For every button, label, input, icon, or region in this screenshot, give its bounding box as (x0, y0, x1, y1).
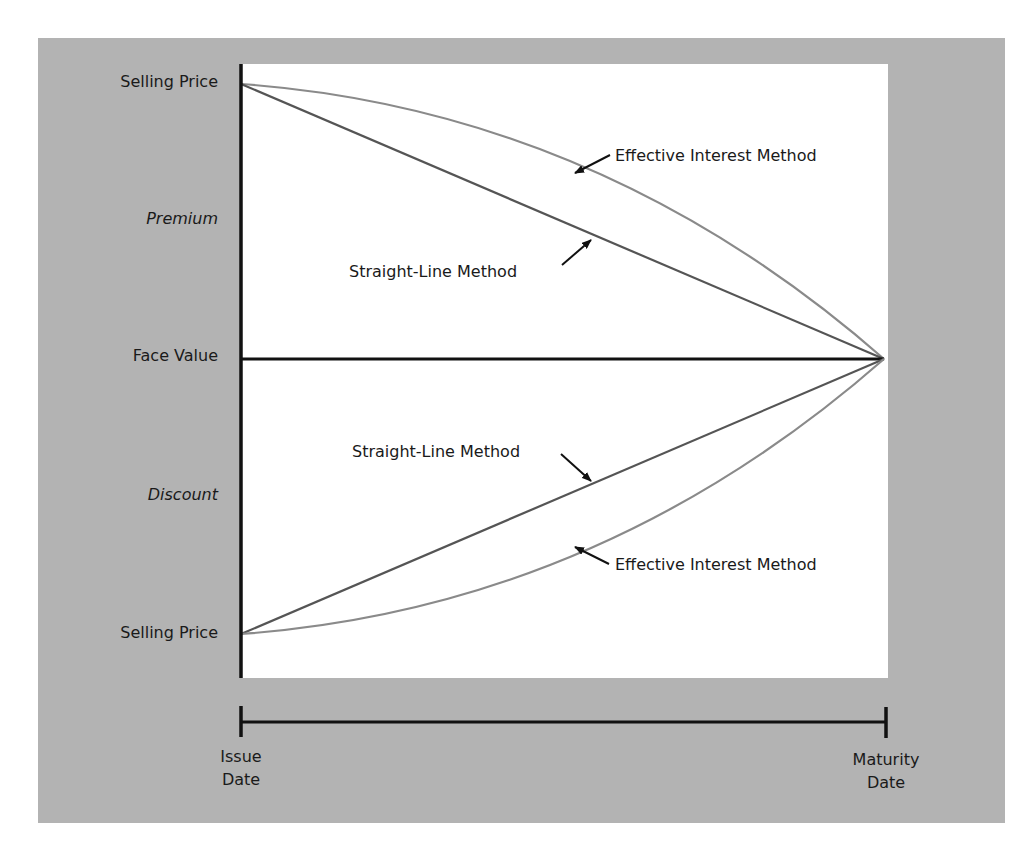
label-face-value: Face Value (133, 346, 218, 366)
label-top-selling-price: Selling Price (120, 72, 218, 92)
annotation-discount-effective-interest: Effective Interest Method (615, 555, 817, 575)
discount-straight-line (241, 359, 884, 634)
annotation-premium-straight-line: Straight-Line Method (349, 262, 517, 282)
amortization-diagram (0, 0, 1026, 863)
premium-straight-line (241, 84, 884, 359)
label-maturity-date: Maturity Date (836, 748, 936, 794)
label-issue-date-line2: Date (191, 768, 291, 791)
label-discount: Discount (148, 485, 218, 505)
label-maturity-date-line1: Maturity (836, 748, 936, 771)
label-issue-date: Issue Date (191, 745, 291, 791)
annotation-discount-straight-line: Straight-Line Method (352, 442, 520, 462)
label-maturity-date-line2: Date (836, 771, 936, 794)
label-issue-date-line1: Issue (191, 745, 291, 768)
arrow-discount-effective (575, 547, 609, 564)
arrow-premium-straight (562, 240, 591, 265)
label-bottom-selling-price: Selling Price (120, 623, 218, 643)
annotation-premium-effective-interest: Effective Interest Method (615, 146, 817, 166)
arrow-discount-straight (561, 454, 591, 481)
label-premium: Premium (146, 209, 218, 229)
